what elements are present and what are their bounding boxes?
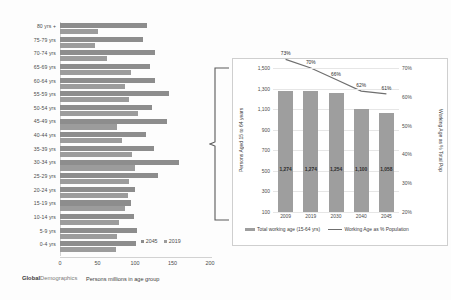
y-axis-tick-label: 500 bbox=[262, 168, 270, 173]
bar-2045 bbox=[60, 91, 169, 96]
x-axis-tick-label: 2019 bbox=[305, 214, 316, 219]
age-group-label: 80 yrs + bbox=[37, 23, 56, 29]
gridline bbox=[273, 68, 399, 69]
x-axis-tick-label: 2009 bbox=[280, 214, 291, 219]
age-group-row: 25-29 yrs bbox=[60, 172, 210, 186]
left-chart-legend: 2045 2019 bbox=[141, 238, 186, 244]
bar-2019 bbox=[60, 97, 129, 102]
age-group-row: 40-44 yrs bbox=[60, 131, 210, 145]
bar-2019 bbox=[60, 206, 125, 211]
legend-item-2045: 2045 bbox=[141, 238, 159, 244]
gridline bbox=[273, 212, 399, 213]
left-chart-axis-title: Persons millions in age group bbox=[86, 276, 159, 282]
y-axis-tick-label: 100 bbox=[262, 210, 270, 215]
age-group-row: 15-19 yrs bbox=[60, 199, 210, 213]
legend-label-2045: 2045 bbox=[146, 238, 158, 244]
bar-2019 bbox=[60, 29, 98, 34]
bar-2019 bbox=[60, 84, 125, 89]
column-value-label: 1,254 bbox=[330, 167, 342, 172]
column-bar: 1,058 bbox=[379, 113, 394, 212]
bar-2019 bbox=[60, 179, 129, 184]
bar-2019 bbox=[60, 247, 116, 252]
age-group-row: 65-69 yrs bbox=[60, 63, 210, 77]
x-axis-tick-label: 2040 bbox=[356, 214, 367, 219]
bar-2045 bbox=[60, 160, 179, 165]
secondary-y-axis-tick-label: 70% bbox=[402, 66, 412, 71]
legend-item-total-working-age: Total working age (15-64 yrs) bbox=[245, 227, 321, 232]
age-group-label: 60-64 yrs bbox=[34, 78, 56, 84]
bar-2019 bbox=[60, 43, 95, 48]
bar-2019 bbox=[60, 220, 119, 225]
column-bar: 1,274 bbox=[278, 91, 293, 212]
age-group-label: 15-19 yrs bbox=[34, 200, 56, 206]
age-group-label: 55-59 yrs bbox=[34, 91, 56, 97]
age-group-row: 35-39 yrs bbox=[60, 145, 210, 159]
line-point-label: 70% bbox=[306, 60, 316, 65]
bar-2045 bbox=[60, 146, 154, 151]
age-group-label: 5-9 yrs bbox=[40, 228, 56, 234]
bar-2019 bbox=[60, 56, 107, 61]
age-group-label: 20-24 yrs bbox=[34, 187, 56, 193]
column-bar: 1,274 bbox=[303, 91, 318, 212]
right-chart-x-axis: 20092019203020402045 bbox=[273, 214, 399, 223]
x-axis-tick-label: 2030 bbox=[331, 214, 342, 219]
y-axis-tick-label: 1,500 bbox=[258, 66, 270, 71]
bar-2045 bbox=[60, 173, 158, 178]
bar-2045 bbox=[60, 241, 136, 246]
y-axis-tick-label: 300 bbox=[262, 189, 270, 194]
bar-2019 bbox=[60, 124, 117, 129]
column-bar: 1,100 bbox=[354, 109, 369, 212]
x-axis-tick-label: 50 bbox=[95, 260, 101, 266]
secondary-y-axis-tick-label: 50% bbox=[402, 123, 412, 128]
age-group-label: 30-34 yrs bbox=[34, 159, 56, 165]
bar-2019 bbox=[60, 165, 135, 170]
y-axis-tick-label: 1,100 bbox=[258, 107, 270, 112]
age-group-label: 0-4 yrs bbox=[40, 241, 56, 247]
brand-logo-secondary: Demographics bbox=[40, 275, 77, 281]
bar-2045 bbox=[60, 214, 134, 219]
column-value-label: 1,274 bbox=[305, 167, 317, 172]
x-axis-tick-label: 100 bbox=[131, 260, 140, 266]
line-point-label: 62% bbox=[356, 83, 366, 88]
bar-2019 bbox=[60, 70, 131, 75]
y-axis-tick-label: 700 bbox=[262, 148, 270, 153]
age-group-row: 10-14 yrs bbox=[60, 213, 210, 227]
bar-2045 bbox=[60, 50, 155, 55]
slide-canvas: 80 yrs +75-79 yrs70-74 yrs65-69 yrs60-64… bbox=[0, 0, 451, 300]
bar-2045 bbox=[60, 37, 143, 42]
legend-swatch-2045-icon bbox=[141, 240, 144, 243]
age-group-label: 65-69 yrs bbox=[34, 64, 56, 70]
column-value-label: 1,058 bbox=[380, 167, 392, 172]
brand-logo: GlobalDemographics bbox=[22, 275, 77, 281]
bar-2019 bbox=[60, 234, 117, 239]
bar-2019 bbox=[60, 152, 132, 157]
bar-2019 bbox=[60, 193, 128, 198]
age-group-label: 25-29 yrs bbox=[34, 173, 56, 179]
legend-item-working-age-percent: Working Age as % Population bbox=[321, 227, 408, 232]
secondary-y-axis-tick-label: 20% bbox=[402, 210, 412, 215]
right-chart-y-axis-title: Persons Aged 15 to 64 years bbox=[236, 75, 245, 205]
age-group-label: 35-39 yrs bbox=[34, 146, 56, 152]
y-axis-tick-label: 900 bbox=[262, 127, 270, 132]
x-axis-tick-label: 150 bbox=[168, 260, 177, 266]
bar-2045 bbox=[60, 64, 150, 69]
age-group-label: 45-49 yrs bbox=[34, 118, 56, 124]
bar-2019 bbox=[60, 138, 122, 143]
column-bar: 1,254 bbox=[329, 93, 344, 212]
left-chart-x-axis: 050100150200 bbox=[60, 257, 212, 268]
line-point-label: 66% bbox=[331, 72, 341, 77]
secondary-y-axis-tick-label: 30% bbox=[402, 181, 412, 186]
legend-swatch-line-icon bbox=[328, 229, 342, 230]
legend-label-2019: 2019 bbox=[169, 238, 181, 244]
legend-swatch-2019-icon bbox=[164, 240, 167, 243]
line-point-label: 73% bbox=[281, 51, 291, 56]
age-group-row: 30-34 yrs bbox=[60, 158, 210, 172]
right-chart-secondary-axis-title: Working Age as % Total Pop bbox=[436, 73, 445, 207]
working-age-combo-chart: Persons Aged 15 to 64 years Working Age … bbox=[232, 58, 448, 246]
left-chart-plot-area: 80 yrs +75-79 yrs70-74 yrs65-69 yrs60-64… bbox=[60, 22, 210, 254]
bar-2045 bbox=[60, 132, 146, 137]
right-chart-legend: Total working age (15-64 yrs) Working Ag… bbox=[245, 227, 409, 232]
age-group-bar-chart: 80 yrs +75-79 yrs70-74 yrs65-69 yrs60-64… bbox=[8, 8, 220, 292]
age-group-row: 5-9 yrs bbox=[60, 227, 210, 241]
legend-item-2019: 2019 bbox=[164, 238, 181, 244]
